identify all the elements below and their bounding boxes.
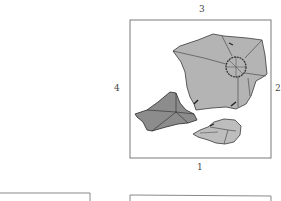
bottom-left-partial-frame — [0, 193, 90, 201]
frame-label-left: 4 — [114, 84, 120, 93]
small-fragment — [193, 119, 241, 144]
fragment-diagram: 3 2 1 4 — [0, 0, 281, 201]
diagram-canvas — [0, 0, 281, 201]
large-fragment — [173, 34, 267, 110]
dark-fragment — [135, 92, 197, 131]
frame-label-top: 3 — [199, 5, 205, 14]
frame-label-right: 2 — [275, 84, 281, 93]
bottom-right-partial-frame — [130, 195, 271, 201]
frame-label-bottom: 1 — [197, 163, 203, 172]
